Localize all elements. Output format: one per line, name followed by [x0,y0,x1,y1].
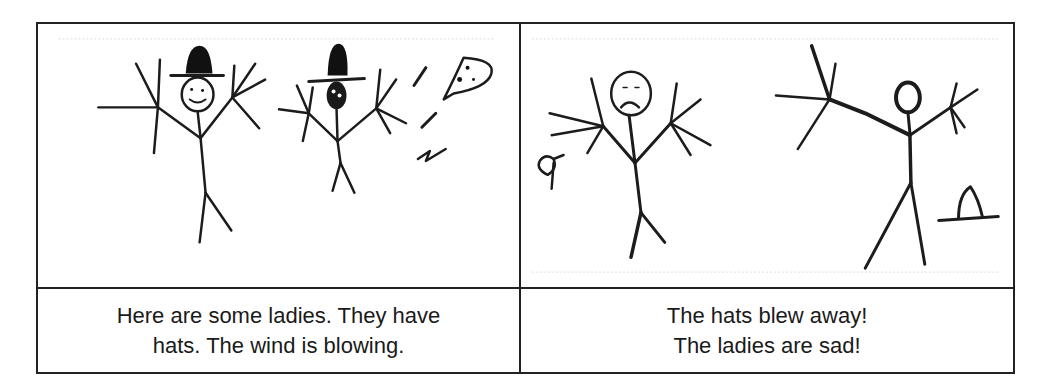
panel-2-drawing [521,24,1013,289]
caption-line: The hats blew away! [667,301,868,331]
panel-2-caption: The hats blew away! The ladies are sad! [521,289,1013,372]
stick-lady-1-icon [98,46,265,243]
panel-1-caption: Here are some ladies. They have hats. Th… [38,289,521,372]
wind-lines-icon [414,68,446,161]
fallen-hat-2-icon [939,187,999,221]
sad-stick-lady-2-icon [776,46,977,268]
comic-strip: Here are some ladies. They have hats. Th… [36,22,1015,374]
caption-line: hats. The wind is blowing. [117,331,441,361]
panel-2-illustration [521,24,1013,287]
caption-line: The ladies are sad! [667,331,868,361]
panel-1-drawing [38,24,521,289]
stick-lady-2-icon [279,44,406,193]
flying-hat-icon [444,58,492,100]
sad-stick-lady-1-icon [550,72,711,258]
caption-line: Here are some ladies. They have [117,301,441,331]
fallen-hat-1-icon [539,155,564,189]
panel-1-illustration [38,24,519,287]
